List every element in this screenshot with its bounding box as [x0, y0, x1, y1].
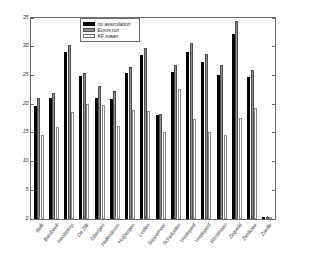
x-tick-mark [69, 216, 70, 219]
bar [56, 127, 59, 219]
y-tick-label: 10 [23, 157, 29, 163]
x-axis-labels: BalkBarsbeekHoofddorpDe ZilkEibergenHell… [30, 220, 276, 274]
bar-group [34, 18, 44, 219]
bar-group [217, 18, 227, 219]
plot-area: 05101520253035 [30, 17, 276, 220]
x-tick-label-text: Balk [34, 222, 45, 233]
y-tick-label: 35 [23, 14, 29, 20]
bar [41, 135, 44, 219]
x-tick-label-text: Leiden [137, 222, 151, 238]
bar [163, 132, 166, 219]
bars-layer [31, 18, 275, 219]
bar [147, 111, 150, 219]
bar [239, 118, 242, 219]
legend-swatch-euros-run [83, 28, 95, 32]
bar [178, 89, 181, 219]
bar [254, 108, 257, 219]
bar-group [156, 18, 166, 219]
x-tick-label-text: De Zilk [76, 222, 90, 238]
x-tick-mark [206, 216, 207, 219]
x-tick-mark [176, 216, 177, 219]
bar-group [186, 18, 196, 219]
bar-group [171, 18, 181, 219]
bar [117, 126, 120, 219]
legend-swatch-kf-mean [83, 34, 95, 38]
chart-screenshot: 05101520253035 BalkBarsbeekHoofddorpDe Z… [0, 0, 309, 274]
bar [208, 132, 211, 219]
legend-item-1: Euros run [83, 27, 137, 33]
bar [86, 104, 89, 219]
x-tick-mark [145, 216, 146, 219]
x-tick-mark [252, 216, 253, 219]
bar-group [125, 18, 135, 219]
x-tick-label-text: Zwolle [260, 222, 274, 237]
chart-legend: no assimilation Euros run KF mean [80, 18, 140, 42]
legend-item-0: no assimilation [83, 21, 137, 27]
legend-label-kf-mean: KF mean [98, 33, 118, 39]
x-tick-mark [39, 216, 40, 219]
bar-group [49, 18, 59, 219]
x-tick-mark [267, 216, 268, 219]
x-tick-mark [191, 216, 192, 219]
bar-group [64, 18, 74, 219]
y-tick-label: 15 [23, 128, 29, 134]
y-tick-label: 30 [23, 42, 29, 48]
bar [102, 105, 105, 219]
y-tick-label: 20 [23, 100, 29, 106]
y-tick-label: 0 [26, 215, 29, 221]
x-tick-mark [100, 216, 101, 219]
bar-group [247, 18, 257, 219]
legend-label-no-assimilation: no assimilation [98, 21, 131, 27]
bar-group [201, 18, 211, 219]
x-tick-mark [115, 216, 116, 219]
bar-group [232, 18, 242, 219]
bar [71, 112, 74, 219]
bar-group [140, 18, 150, 219]
x-tick-mark [161, 216, 162, 219]
y-tick-label: 25 [23, 71, 29, 77]
x-tick-mark [222, 216, 223, 219]
bar [224, 135, 227, 219]
x-tick-mark [237, 216, 238, 219]
bar [132, 110, 135, 219]
y-tick-label: 5 [26, 186, 29, 192]
bar [269, 217, 272, 219]
bar-group [79, 18, 89, 219]
x-tick-mark [84, 216, 85, 219]
legend-item-2: KF mean [83, 33, 137, 39]
bar-group [95, 18, 105, 219]
x-tick-mark [130, 216, 131, 219]
bar [193, 119, 196, 220]
bar-group [110, 18, 120, 219]
bar-group [262, 18, 272, 219]
x-tick-mark [54, 216, 55, 219]
legend-swatch-no-assimilation [83, 22, 95, 26]
legend-label-euros-run: Euros run [98, 27, 120, 33]
